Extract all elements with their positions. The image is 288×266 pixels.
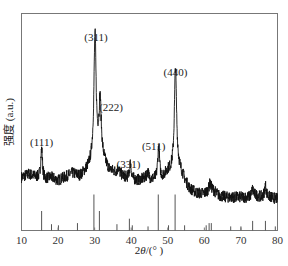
peak-labels: (111)(311)(222)(331)(511)(440) <box>30 31 188 171</box>
x-axis-title: 2θ/(° ) <box>135 244 164 257</box>
x-tick-label: 10 <box>16 234 28 246</box>
x-tick-label: 60 <box>199 234 211 246</box>
x-tick-label: 70 <box>235 234 247 246</box>
peak-label: (511) <box>142 140 166 153</box>
x-tick-label: 20 <box>53 234 65 246</box>
x-tick-label: 50 <box>162 234 174 246</box>
x-tick-label: 80 <box>272 234 284 246</box>
peak-label: (311) <box>84 31 108 44</box>
peak-label: (331) <box>117 158 141 171</box>
xrd-chart: (111)(311)(222)(331)(511)(440) 102030405… <box>0 0 288 266</box>
diffraction-pattern <box>22 29 278 204</box>
peak-label: (222) <box>99 101 123 114</box>
y-axis-title: 强度 (a.u.) <box>2 98 16 146</box>
x-tick-label: 30 <box>89 234 101 246</box>
peak-label: (111) <box>30 136 53 149</box>
peak-label: (440) <box>164 66 188 79</box>
